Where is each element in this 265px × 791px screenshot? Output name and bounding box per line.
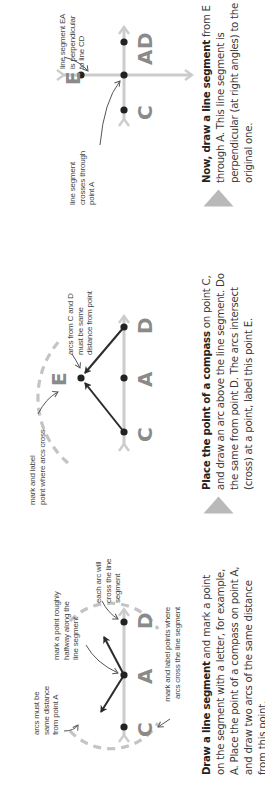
step-1-caption: Draw a line segment and mark a point on … — [200, 563, 265, 775]
leader-halfway — [86, 645, 118, 673]
step-1-caption-bold: Draw a line segment — [201, 661, 212, 775]
label-c: C — [133, 427, 157, 442]
anno-each-arc: each arc will cross the line segment — [94, 547, 123, 603]
anno-arcs-same-distance: arcs must be same distance from point A — [32, 675, 61, 735]
label-d: D — [133, 32, 157, 49]
point-c — [120, 723, 127, 730]
anno-halfway: mark a point roughly halfway along the l… — [52, 576, 81, 660]
step-3-caption: Now, draw a line segment from E through … — [200, 1, 256, 183]
leader-mark-label — [158, 719, 170, 727]
label-e: E — [47, 372, 71, 386]
step-1-panel: C A D arcs must be same distance from po… — [0, 526, 265, 791]
triangle-bullet-icon — [204, 190, 234, 207]
point-a — [120, 671, 127, 678]
label-c: C — [133, 722, 157, 737]
point-e — [77, 374, 84, 381]
leader-arcs-from — [72, 354, 80, 368]
anno-mark-label-points: mark and label points where arcs cross t… — [163, 607, 182, 717]
step-3-panel: C A D E line segment crosses through poi… — [0, 0, 265, 261]
triangle-bullet-icon — [204, 497, 234, 514]
label-e: E — [61, 71, 85, 85]
anno-perpendicular: line segment EA is perpendicular to line… — [58, 1, 87, 69]
point-d — [120, 323, 127, 330]
leader-arcs-same — [64, 725, 78, 731]
label-a: A — [133, 668, 157, 684]
step-2-caption-bold: Place the point of a compass — [201, 331, 212, 490]
arrow-a-to-right — [104, 637, 124, 675]
label-d: D — [133, 612, 157, 629]
label-c: C — [133, 105, 157, 120]
step-2-panel: C A D E mark and label point where arcs … — [0, 261, 265, 526]
point-d — [120, 38, 127, 45]
label-d: D — [133, 317, 157, 334]
anno-arcs-from-c-and-d: arcs from C and D must be same distance … — [66, 261, 95, 355]
point-d — [120, 618, 127, 625]
label-a: A — [133, 371, 157, 387]
arrow-a-to-left — [101, 675, 124, 712]
point-c — [120, 106, 127, 113]
step-2-caption: Place the point of a compass on point C,… — [200, 264, 256, 490]
point-a — [120, 71, 127, 78]
anno-crosses-through-a: line segment crosses through point A — [68, 135, 97, 205]
point-c — [120, 428, 127, 435]
arrow-c-to-e — [85, 383, 124, 432]
anno-mark-label-point: mark and label point where arcs cross — [28, 411, 47, 505]
point-a — [120, 374, 127, 381]
step-3-caption-bold: Now, draw a line segment — [201, 40, 212, 183]
page: C A D arcs must be same distance from po… — [0, 0, 265, 791]
label-a: A — [133, 49, 157, 65]
leader-crosses — [100, 81, 120, 145]
